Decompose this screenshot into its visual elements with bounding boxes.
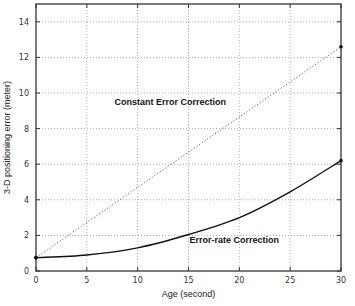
annotation-label: Error-rate Correction [189, 235, 279, 245]
plot-frame [36, 4, 341, 271]
y-axis-label: 3-D positioning error (meter) [2, 81, 12, 194]
x-tick-label: 0 [33, 276, 38, 285]
chart: 05101520253002468101214 Constant Error C… [0, 0, 355, 306]
y-tick-label: 2 [24, 231, 29, 240]
y-tick-label: 10 [19, 89, 29, 98]
y-tick-label: 8 [24, 125, 29, 134]
x-tick-label: 30 [336, 276, 346, 285]
series-endpoint-marker [34, 256, 38, 260]
annotations: Constant Error CorrectionError-rate Corr… [114, 97, 279, 244]
series-group [34, 45, 343, 260]
y-tick-label: 12 [19, 53, 29, 62]
ticks: 05101520253002468101214 [19, 4, 346, 285]
x-tick-label: 10 [133, 276, 143, 285]
y-tick-label: 4 [24, 196, 29, 205]
x-tick-label: 15 [183, 276, 193, 285]
grid [36, 4, 341, 271]
x-tick-label: 25 [285, 276, 295, 285]
x-tick-label: 20 [234, 276, 244, 285]
series-endpoint-marker [339, 45, 343, 49]
y-tick-label: 6 [24, 160, 29, 169]
y-tick-label: 0 [24, 267, 29, 276]
annotation-label: Constant Error Correction [114, 97, 226, 107]
x-axis-label: Age (second) [162, 289, 216, 299]
series-endpoint-marker [339, 159, 343, 163]
x-tick-label: 5 [84, 276, 89, 285]
y-tick-label: 14 [19, 18, 29, 27]
